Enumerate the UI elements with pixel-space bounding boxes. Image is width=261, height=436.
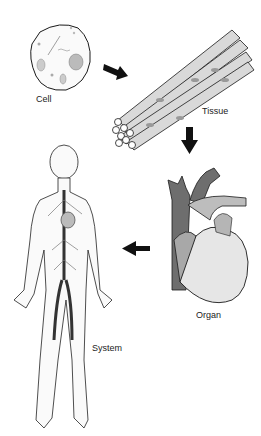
label-organ: Organ bbox=[196, 310, 221, 320]
label-system: System bbox=[92, 343, 122, 353]
diagram-canvas bbox=[0, 0, 261, 436]
arrow-tissue-to-organ bbox=[181, 127, 198, 154]
system-illustration bbox=[14, 145, 112, 428]
label-cell: Cell bbox=[36, 94, 52, 104]
cell-illustration bbox=[31, 25, 91, 90]
arrow-organ-to-system bbox=[122, 241, 150, 256]
organ-illustration bbox=[168, 168, 248, 303]
arrow-cell-to-tissue bbox=[103, 64, 128, 80]
label-tissue: Tissue bbox=[202, 106, 228, 116]
tissue-illustration bbox=[113, 30, 255, 150]
